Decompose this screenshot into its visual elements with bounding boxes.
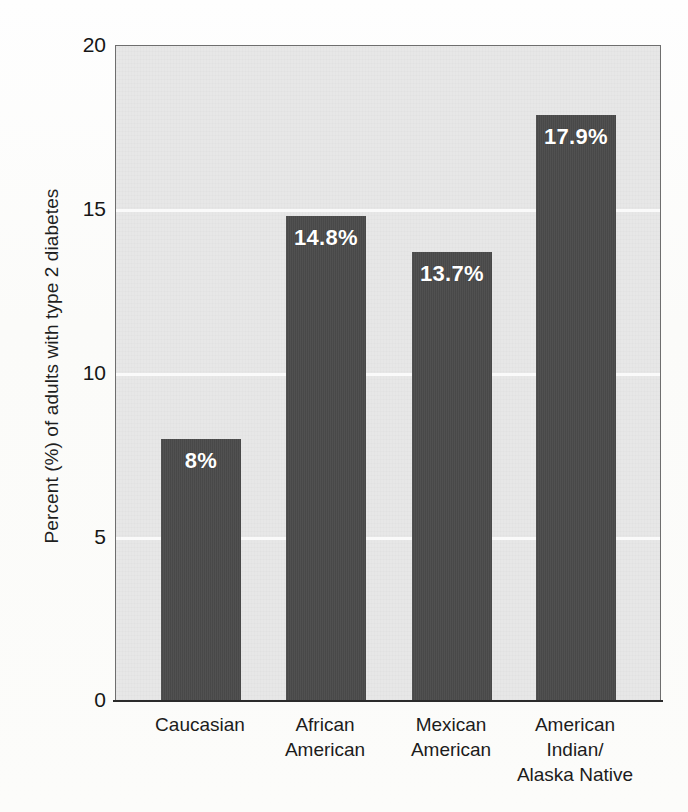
- y-tick-20: 20: [54, 34, 106, 55]
- y-tick-0: 0: [54, 689, 106, 710]
- bar-chart-figure: Percent (%) of adults with type 2 diabet…: [0, 0, 688, 812]
- bar-american-indian-alaska-native[interactable]: 17.9%: [536, 115, 616, 701]
- y-axis-tick-labels: 20 15 10 5 0: [48, 0, 106, 812]
- bar-label-african-american: 14.8%: [286, 225, 366, 251]
- bar-label-american-indian-alaska-native: 17.9%: [536, 124, 616, 150]
- x-axis-line: [113, 700, 663, 702]
- bar-label-mexican-american: 13.7%: [412, 261, 492, 287]
- bar-mexican-american[interactable]: 13.7%: [412, 252, 492, 701]
- x-label-american-indian-line-2: Indian/: [495, 737, 655, 762]
- y-tick-15: 15: [54, 198, 106, 219]
- y-tick-10: 10: [54, 362, 106, 383]
- bar-label-caucasian: 8%: [161, 448, 241, 474]
- plot-area: 8% 14.8% 13.7% 17.9%: [115, 45, 661, 701]
- bar-african-american[interactable]: 14.8%: [286, 216, 366, 701]
- bar-caucasian[interactable]: 8%: [161, 439, 241, 701]
- x-label-american-indian-line-3: Alaska Native: [495, 762, 655, 787]
- x-axis-category-labels: Caucasian African American Mexican Ameri…: [115, 712, 661, 808]
- x-label-american-indian-alaska-native: American Indian/ Alaska Native: [495, 712, 655, 787]
- x-label-american-indian-line-1: American: [495, 712, 655, 737]
- y-tick-5: 5: [54, 526, 106, 547]
